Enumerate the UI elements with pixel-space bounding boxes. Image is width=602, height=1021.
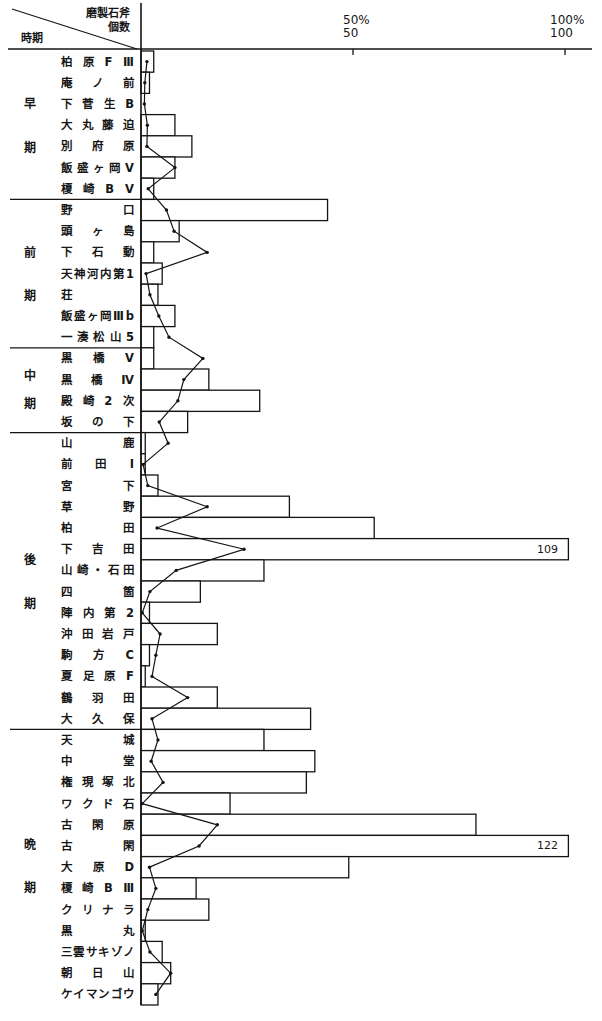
tick-50-value-label: 50 [343, 27, 358, 39]
count-bar [141, 963, 171, 984]
site-label-char: ヶ [92, 225, 103, 237]
percentage-point [169, 972, 172, 975]
site-label: 草野 [61, 496, 134, 517]
site-label-char: 島 [123, 225, 134, 237]
site-label-char: 羽 [92, 692, 103, 704]
site-label: 榎崎BV [61, 178, 134, 199]
site-label-char: 日 [92, 967, 103, 979]
site-label-char: 田 [123, 522, 134, 534]
percentage-point [156, 738, 159, 741]
site-label: 古閑原 [61, 814, 134, 835]
site-label: 鶴羽田 [61, 687, 134, 708]
site-label: 天城 [61, 729, 134, 750]
site-label: 庵ノ前 [61, 72, 134, 93]
site-label-char: 草 [61, 501, 72, 513]
site-label-char: 内 [83, 607, 94, 619]
site-label-char: 方 [93, 649, 104, 661]
site-label: 柏田 [61, 517, 134, 538]
site-label: 柏原FⅢ [61, 51, 134, 72]
count-bar [141, 539, 568, 560]
site-label-char: 駒 [61, 649, 72, 661]
percentage-point [149, 760, 152, 763]
site-label: 四箇 [61, 581, 134, 602]
site-label-char: 保 [123, 713, 134, 725]
site-label-char: 現 [82, 776, 93, 788]
percentage-point [172, 230, 175, 233]
count-axis-title-line2: 個数 [108, 22, 130, 34]
site-label-char: 山 [61, 437, 72, 449]
percentage-point [150, 675, 153, 678]
percentage-point [205, 251, 208, 254]
site-label-char: 塚 [102, 776, 113, 788]
site-label-char: 菅 [82, 98, 93, 110]
site-label-char: Ⅳ [121, 374, 134, 386]
site-label-char: 飯 [61, 310, 72, 322]
site-label-char: ・ [92, 564, 103, 576]
site-label-char: 丸 [82, 119, 93, 131]
percentage-point [173, 166, 176, 169]
site-label: 黒丸 [61, 920, 134, 941]
site-label-char: 坂 [61, 416, 72, 428]
site-label: 古閑 [61, 835, 134, 856]
count-bar [141, 348, 154, 369]
site-label-char: 2 [104, 395, 112, 407]
site-label: 榎崎BⅢ [61, 878, 134, 899]
count-bar [141, 878, 196, 899]
site-label-char: 中 [61, 755, 72, 767]
site-label: 駒方C [61, 645, 134, 666]
site-label-char: 四 [61, 586, 72, 598]
percentage-point [155, 526, 158, 529]
site-label-char: 黒 [61, 352, 72, 364]
tick-100-percent-label: 100% [550, 14, 584, 26]
site-label-char: F [105, 56, 113, 68]
site-label: 大原D [61, 857, 134, 878]
site-label-char: 5 [126, 331, 134, 343]
period-label-char: 晩 [21, 838, 39, 852]
site-label: 山鹿 [61, 433, 134, 454]
site-label: クリナラ [61, 899, 134, 920]
site-label: 黒橋V [61, 348, 134, 369]
site-label-char: 野 [61, 204, 72, 216]
site-label-char: 箇 [123, 586, 134, 598]
site-label-char: 古 [61, 819, 72, 831]
site-label-char: 田 [123, 543, 134, 555]
tick-100-value-label: 100 [550, 27, 573, 39]
percentage-point [144, 272, 147, 275]
site-label-char: ナ [102, 904, 113, 916]
site-label-char: 庵 [61, 77, 72, 89]
site-label-char: 原 [93, 861, 104, 873]
percentage-point [158, 632, 161, 635]
percentage-point [216, 823, 219, 826]
count-bar [141, 772, 306, 793]
percentage-point [148, 950, 151, 953]
site-label-char: 殿 [61, 395, 72, 407]
site-label: 飯盛ヶ岡Ⅲb [61, 305, 134, 326]
site-label-char: 田 [123, 692, 134, 704]
site-label-char: ケ [61, 988, 72, 1000]
site-label-char: 橋 [93, 352, 104, 364]
period-label-char: 期 [21, 397, 39, 411]
site-label-char: 天 [61, 268, 72, 280]
site-label-char: V [125, 352, 134, 364]
site-label-char: Ⅲ [123, 56, 134, 68]
site-label-char: 石 [108, 564, 119, 576]
site-label-char: 城 [123, 734, 134, 746]
percentage-point [145, 60, 148, 63]
site-label-char: 田 [123, 564, 134, 576]
site-label-char: 堂 [123, 755, 134, 767]
percentage-point [174, 569, 177, 572]
site-label-char: 久 [92, 713, 103, 725]
site-label-char: C [126, 649, 134, 661]
site-label-char: ノ [92, 77, 103, 89]
site-label-char: 山 [123, 967, 134, 979]
site-label-char: 下 [123, 480, 134, 492]
period-label-char: 前 [21, 246, 39, 260]
site-label: 大丸藤迫 [61, 115, 134, 136]
percentage-point [141, 802, 144, 805]
site-label-char: V [125, 162, 134, 174]
tick-50-percent-label: 50% [343, 14, 370, 26]
site-label-char: 生 [104, 98, 115, 110]
site-label-char: 原 [104, 670, 115, 682]
site-label: 別府原 [61, 136, 134, 157]
site-label-char: 下 [61, 543, 72, 555]
